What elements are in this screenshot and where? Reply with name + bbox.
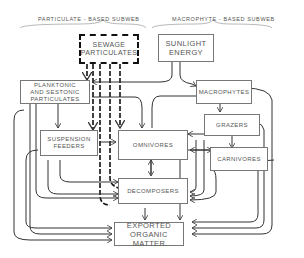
node-suspension-feeders: SUSPENSION FEEDERS: [40, 130, 98, 156]
node-planktonic-sestonic-particulates: PLANKTONIC AND SESTONIC PARTICULATES: [20, 80, 90, 104]
node-sunlight-energy: SUNLIGHT ENERGY: [158, 34, 214, 62]
node-macrophytes: MACROPHYTES: [196, 80, 252, 104]
node-sewage-particulates: SEWAGE PARTICULATES: [79, 34, 139, 64]
node-omnivores: OMNIVORES: [118, 130, 188, 160]
node-carnivores: CARNIVORES: [210, 147, 268, 171]
node-decomposers: DECOMPOSERS: [118, 178, 188, 204]
subweb-label-particulate: PARTICULATE - BASED SUBWEB: [38, 16, 139, 22]
node-grazers: GRAZERS: [204, 114, 260, 136]
subweb-label-macrophyte: MACROPHYTE - BASED SUBWEB: [172, 16, 275, 22]
node-exported-organic-matter: EXPORTED ORGANIC MATTER: [114, 222, 184, 246]
